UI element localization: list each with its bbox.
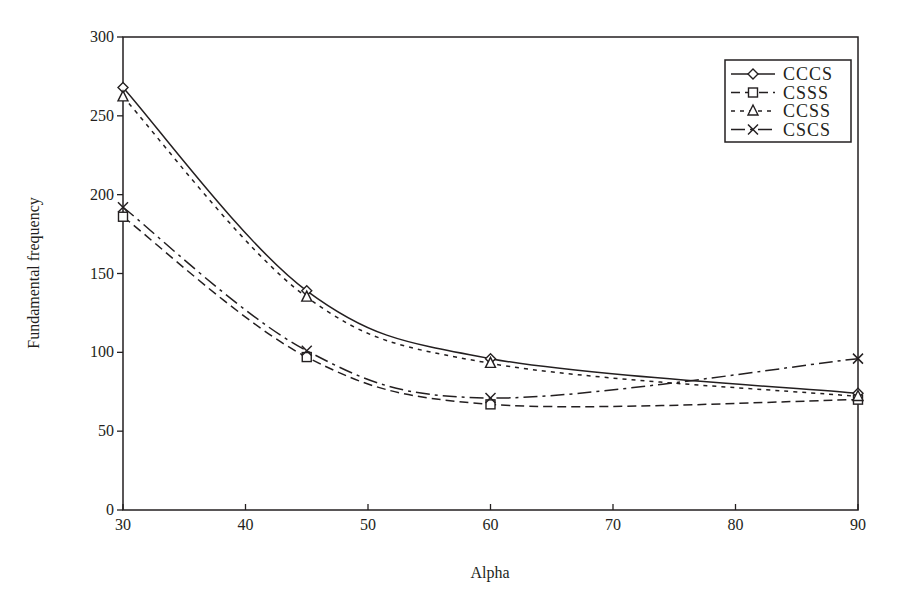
legend-label: CSSS xyxy=(783,83,829,103)
x-tick-label: 50 xyxy=(360,516,376,533)
series-line xyxy=(123,217,858,407)
x-tick-label: 60 xyxy=(483,516,499,533)
y-tick-label: 300 xyxy=(90,28,114,45)
x-tick-label: 40 xyxy=(238,516,254,533)
y-tick-label: 100 xyxy=(90,343,114,360)
legend-label: CCSS xyxy=(783,101,831,121)
x-tick-label: 30 xyxy=(115,516,131,533)
y-tick-label: 50 xyxy=(98,422,114,439)
chart: 050100150200250300 30405060708090 Alpha … xyxy=(0,0,914,610)
x-tick-label: 80 xyxy=(728,516,744,533)
y-tick-label: 150 xyxy=(90,265,114,282)
x-axis: 30405060708090 xyxy=(115,504,866,533)
x-axis-title: Alpha xyxy=(470,564,509,582)
square-marker-icon xyxy=(749,88,758,97)
y-axis-title: Fundamental frequency xyxy=(25,197,43,349)
y-tick-label: 0 xyxy=(106,501,114,518)
legend-label: CCCS xyxy=(783,64,833,84)
x-tick-label: 90 xyxy=(850,516,866,533)
series-cscs xyxy=(118,202,863,403)
series-line xyxy=(123,207,858,398)
square-marker-icon xyxy=(119,212,128,221)
y-tick-label: 200 xyxy=(90,186,114,203)
x-tick-label: 70 xyxy=(605,516,621,533)
y-tick-label: 250 xyxy=(90,107,114,124)
legend: CCCSCSSSCCSSCSCS xyxy=(725,60,851,142)
series-csss xyxy=(119,212,863,409)
legend-label: CSCS xyxy=(783,120,831,140)
